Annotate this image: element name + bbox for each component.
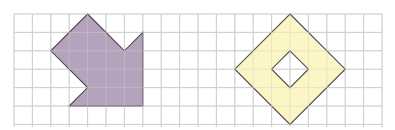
purple-arrow-shape [51, 14, 143, 106]
grid-diagram [0, 0, 395, 130]
overlay-grid [14, 14, 382, 127]
